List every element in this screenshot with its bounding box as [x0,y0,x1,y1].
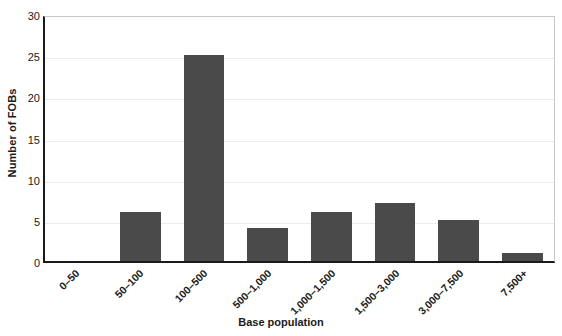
bar-chart: Number of FOBs 051015202530 0–5050–10010… [0,0,562,336]
x-axis-tick-label-text: 7,500+ [498,267,529,298]
y-axis-tick-label: 0 [34,257,40,269]
x-axis-tick-label-text: 50–100 [112,267,145,300]
y-axis-tick-label: 5 [34,216,40,228]
x-axis-tick-slot: 0–50 [43,265,107,313]
x-axis-tick-label-text: 500–1,000 [230,267,274,311]
bar-slot [490,17,554,261]
x-axis-tick-label-text: 0–50 [56,267,81,292]
y-axis-tick-label: 10 [28,175,40,187]
x-axis-tick-labels: 0–5050–100100–500500–1,0001,000–1,5001,5… [43,265,555,313]
y-axis-tick-label: 20 [28,92,40,104]
x-axis-tick-slot: 3,000–7,500 [427,265,491,313]
plot-area [43,16,555,263]
x-axis-tick-slot: 50–100 [107,265,171,313]
bar[interactable] [184,55,225,261]
x-axis-tick-label-text: 100–500 [172,267,209,304]
bar-slot [363,17,427,261]
bar-slot [109,17,173,261]
bar-series [45,17,554,261]
bar-slot [427,17,491,261]
y-axis-tick-label: 25 [28,51,40,63]
y-axis-tick-labels: 051015202530 [18,16,40,263]
y-axis-title-text: Number of FOBs [6,88,18,177]
bar-slot [172,17,236,261]
x-axis-tick-slot: 100–500 [171,265,235,313]
x-axis-tick-slot: 7,500+ [491,265,555,313]
bar-slot [236,17,300,261]
x-axis-title: Base population [0,316,562,328]
y-axis-tick-label: 30 [28,10,40,22]
bar-slot [300,17,364,261]
y-axis-tick-label: 15 [28,134,40,146]
bar-slot [45,17,109,261]
